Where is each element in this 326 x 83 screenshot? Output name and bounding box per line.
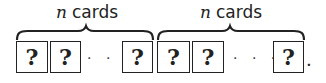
card: ?	[16, 41, 48, 73]
cards-text: cards	[72, 2, 118, 22]
n-variable: n	[56, 2, 67, 22]
card: ?	[273, 41, 304, 73]
card: ?	[157, 41, 190, 73]
terminator-period: .	[306, 52, 312, 68]
card: ?	[50, 41, 81, 73]
card: ?	[192, 41, 224, 73]
group-2-label: ncards	[200, 2, 262, 22]
n-variable: n	[200, 2, 211, 22]
card-sequence-diagram: ncards ncards ? ? · · · ? ? ? · · · ? .	[0, 0, 326, 83]
right-brace	[158, 26, 304, 40]
cards-text: cards	[216, 2, 262, 22]
card: ?	[122, 41, 153, 73]
left-brace	[17, 26, 153, 40]
group-1-label: ncards	[56, 2, 118, 22]
